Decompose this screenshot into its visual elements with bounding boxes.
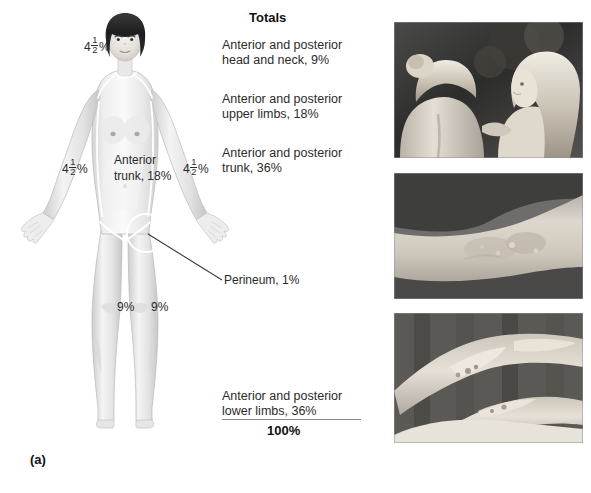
totals-item-upper-limbs: Anterior and posterior upper limbs, 18% xyxy=(222,92,342,122)
totals-divider xyxy=(222,419,361,420)
label-perineum-percent: Perineum, 1% xyxy=(224,273,299,287)
limb-closeup-photo xyxy=(394,173,583,299)
totals-item-trunk: Anterior and posterior trunk, 36% xyxy=(222,146,342,176)
label-anterior-trunk-percent: Anterior trunk, 18% xyxy=(114,152,171,184)
panel-b-photographs: (b) xyxy=(380,0,591,493)
totals-item-lower-limbs: Anterior and posterior lower limbs, 36% xyxy=(222,389,342,419)
fraction-one-half: 12 xyxy=(91,36,98,55)
female-body-illustration xyxy=(10,10,240,430)
panel-a-diagram: 412% 412% 412% Anterior trunk, 18% 9% 9%… xyxy=(0,0,380,493)
label-right-upper-limb-percent: 412% xyxy=(183,158,209,177)
two-children-backs-photo xyxy=(394,22,583,158)
totals-heading: Totals xyxy=(249,10,286,25)
totals-item-head-neck: Anterior and posterior head and neck, 9% xyxy=(222,38,342,68)
panel-a-caption: (a) xyxy=(30,452,46,467)
label-left-upper-limb-percent: 412% xyxy=(62,158,88,177)
fraction-one-half: 12 xyxy=(190,158,197,177)
fraction-one-half: 12 xyxy=(69,158,76,177)
figure-rule-of-nines: 412% 412% 412% Anterior trunk, 18% 9% 9%… xyxy=(0,0,591,493)
totals-grand-total: 100% xyxy=(267,423,300,438)
label-right-lower-limb-percent: 9% xyxy=(151,300,168,314)
legs-dressing-photo xyxy=(394,313,583,443)
label-head-percent: 412% xyxy=(84,36,110,55)
label-left-lower-limb-percent: 9% xyxy=(117,300,134,314)
